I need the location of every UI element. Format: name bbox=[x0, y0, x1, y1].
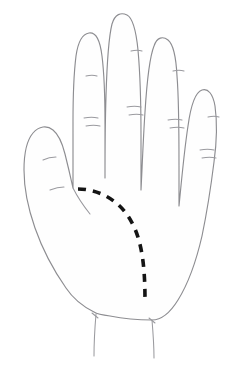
hand-diagram-figure bbox=[0, 0, 246, 368]
hand-illustration bbox=[0, 0, 246, 368]
